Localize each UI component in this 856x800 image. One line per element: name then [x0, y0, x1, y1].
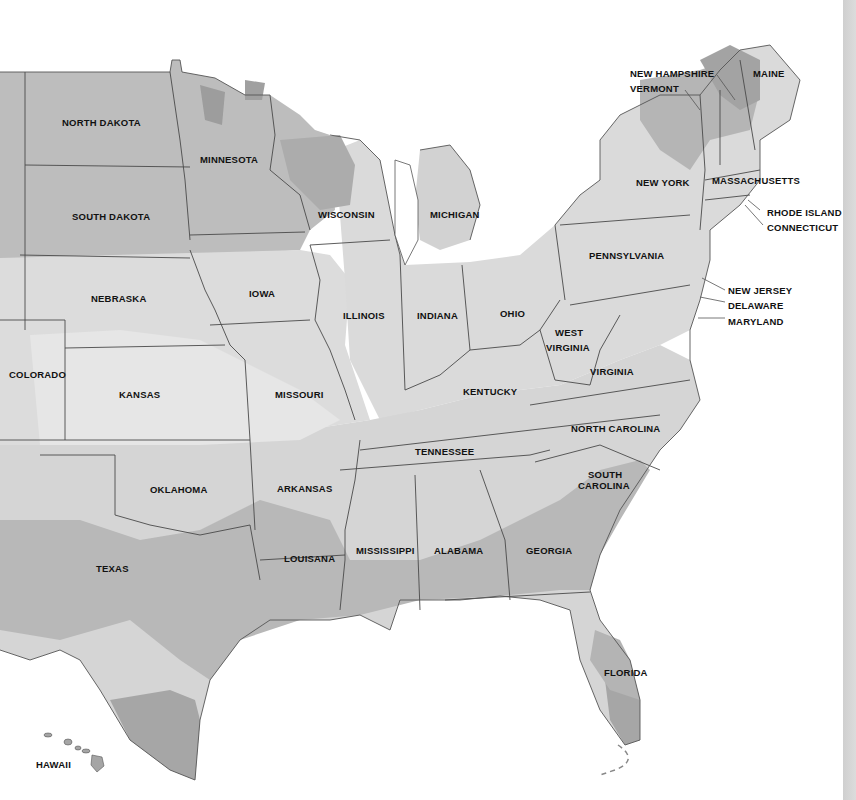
- zone-dark-minnesota-2: [245, 80, 265, 100]
- callout-maine: MAINE: [753, 68, 785, 80]
- label-hawaii: HAWAII: [36, 759, 71, 771]
- label-north-dakota: NORTH DAKOTA: [62, 117, 141, 129]
- callout-vermont: VERMONT: [630, 83, 679, 95]
- label-michigan: MICHIGAN: [430, 209, 480, 221]
- label-south-carolina-line2: CAROLINA: [578, 480, 630, 492]
- label-tennessee: TENNESSEE: [415, 446, 474, 458]
- label-missouri: MISSOURI: [275, 389, 324, 401]
- callout-rhode-island: RHODE ISLAND: [767, 207, 842, 219]
- label-kentucky: KENTUCKY: [463, 386, 517, 398]
- page-edge-strip: [843, 0, 856, 800]
- callout-massachusetts: MASSACHUSETTS: [712, 175, 800, 187]
- label-wisconsin: WISCONSIN: [318, 209, 375, 221]
- label-minnesota: MINNESOTA: [200, 154, 258, 166]
- callout-new-jersey: NEW JERSEY: [728, 285, 792, 297]
- label-arkansas: ARKANSAS: [277, 483, 332, 495]
- label-virginia: VIRGINIA: [590, 366, 634, 378]
- label-west-virginia-line1: WEST: [555, 327, 583, 339]
- label-south-dakota: SOUTH DAKOTA: [72, 211, 150, 223]
- label-colorado: COLORADO: [9, 369, 66, 381]
- label-new-york: NEW YORK: [636, 177, 690, 189]
- label-alabama: ALABAMA: [434, 545, 483, 557]
- zone-dark-south-texas: [110, 690, 200, 780]
- callout-new-hampshire: NEW HAMPSHIRE: [630, 68, 714, 80]
- label-texas: TEXAS: [96, 563, 129, 575]
- label-florida: FLORIDA: [604, 667, 648, 679]
- label-ohio: OHIO: [500, 308, 525, 320]
- label-west-virginia-line2: VIRGINIA: [546, 342, 590, 354]
- callout-maryland: MARYLAND: [728, 316, 784, 328]
- region-michigan: [415, 145, 480, 250]
- label-north-carolina: NORTH CAROLINA: [571, 423, 660, 435]
- label-oklahoma: OKLAHOMA: [150, 484, 208, 496]
- label-pennsylvania: PENNSYLVANIA: [589, 250, 664, 262]
- label-georgia: GEORGIA: [526, 545, 572, 557]
- label-louisiana: LOUISANA: [284, 553, 335, 565]
- label-nebraska: NEBRASKA: [91, 293, 146, 305]
- florida-keys: [600, 745, 628, 775]
- label-iowa: IOWA: [249, 288, 275, 300]
- label-mississippi: MISSISSIPPI: [356, 545, 415, 557]
- label-illinois: ILLINOIS: [343, 310, 385, 322]
- callout-connecticut: CONNECTICUT: [767, 222, 838, 234]
- callout-delaware: DELAWARE: [728, 300, 783, 312]
- label-kansas: KANSAS: [119, 389, 160, 401]
- label-indiana: INDIANA: [417, 310, 458, 322]
